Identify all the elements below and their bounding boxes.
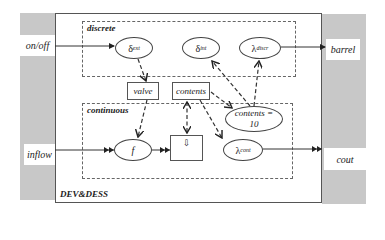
- valve-box: valve: [127, 82, 159, 100]
- f-node: f: [114, 139, 152, 161]
- port-cout: cout: [324, 148, 366, 170]
- state-event-line1: contents =: [235, 108, 273, 119]
- continuous-label: continuous: [87, 105, 129, 115]
- f-label: f: [132, 145, 135, 156]
- state-event-line2: 10: [250, 119, 259, 130]
- delta-ext-sub: ext: [133, 43, 140, 54]
- lambda-discr-node: λdiscr: [239, 37, 281, 59]
- delta-ext-node: δext: [115, 37, 153, 59]
- discrete-label: discrete: [87, 23, 116, 33]
- lambda-cont-sup: cont: [240, 145, 250, 156]
- state-event-node: contents = 10: [225, 106, 283, 132]
- contents-box: contents: [172, 82, 210, 100]
- port-barrel: barrel: [326, 39, 360, 60]
- diagram-title: DEV&DESS: [60, 189, 108, 199]
- integrator-icon: ⇩: [183, 138, 191, 148]
- integrator-box: ⇩: [170, 135, 203, 161]
- delta-int-sub: int: [200, 43, 206, 54]
- lambda-cont-node: λcont: [223, 139, 263, 161]
- lambda-discr-sup: discr: [256, 43, 268, 54]
- delta-int-node: δint: [182, 37, 220, 59]
- port-on-off: on/off: [20, 35, 55, 56]
- port-inflow: inflow: [24, 144, 55, 165]
